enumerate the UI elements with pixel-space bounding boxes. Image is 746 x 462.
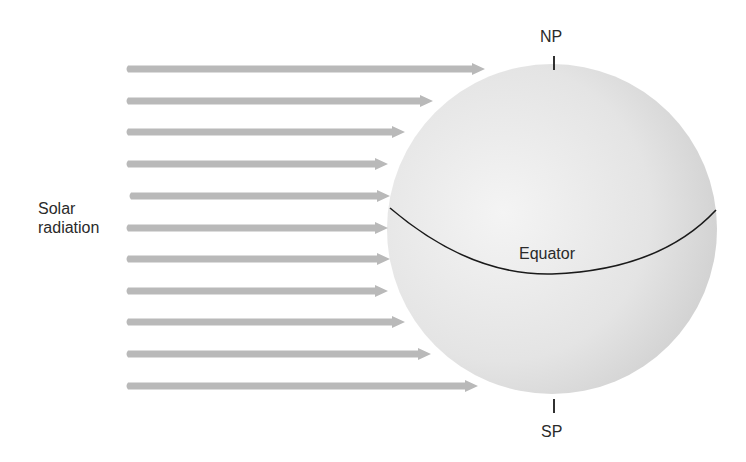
- radiation-arrow: [127, 380, 479, 392]
- radiation-arrow: [127, 222, 389, 234]
- radiation-arrow: [127, 95, 434, 107]
- equator-label: Equator: [519, 244, 575, 263]
- radiation-arrow: [127, 285, 389, 297]
- radiation-arrow: [127, 316, 406, 328]
- solar-radiation-label: Solar radiation: [38, 199, 99, 237]
- radiation-arrow: [130, 190, 391, 202]
- radiation-arrow: [127, 253, 391, 265]
- solar-label-line1: Solar: [38, 199, 99, 218]
- radiation-arrow: [127, 126, 406, 138]
- radiation-arrow: [127, 158, 389, 170]
- north-pole-label: NP: [540, 27, 562, 46]
- south-pole-label: SP: [541, 422, 562, 441]
- solar-label-line2: radiation: [38, 218, 99, 237]
- earth-sphere: [387, 64, 717, 394]
- radiation-arrow: [127, 63, 486, 75]
- diagram-canvas: [0, 0, 746, 462]
- radiation-arrow: [127, 348, 432, 360]
